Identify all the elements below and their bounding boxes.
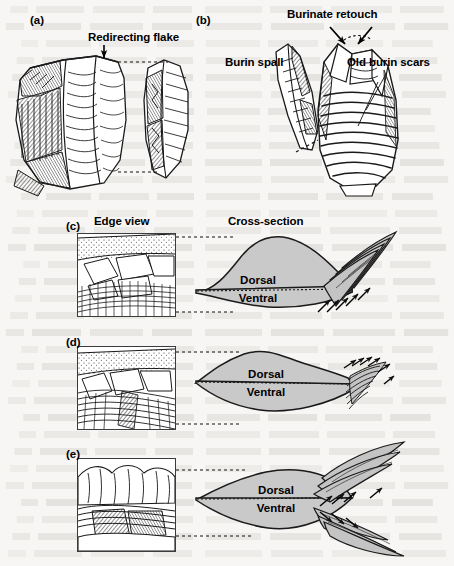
panel-a-artifact-profile <box>144 60 188 178</box>
label-cross-section: Cross-section <box>228 215 303 227</box>
label-dorsal-d: Dorsal <box>236 368 296 380</box>
panel-id-d: (d) <box>66 336 81 348</box>
figure-artwork <box>0 0 454 566</box>
edge-view-box-c <box>77 233 176 317</box>
label-ventral-d: Ventral <box>236 386 296 398</box>
edge-view-box-e <box>77 458 176 552</box>
panel-id-b: (b) <box>196 14 211 26</box>
label-ventral-e: Ventral <box>246 502 306 514</box>
label-burinate-retouch: Burinate retouch <box>287 8 377 20</box>
label-ventral-c: Ventral <box>228 292 288 304</box>
panel-d-cross-section <box>196 351 394 410</box>
label-edge-view: Edge view <box>94 215 149 227</box>
archaeology-figure: (a) (b) (c) (d) (e) Redirecting flake Bu… <box>0 0 454 566</box>
panel-e-cross-section <box>196 442 404 556</box>
label-dorsal-e: Dorsal <box>246 484 306 496</box>
label-dorsal-c: Dorsal <box>228 274 288 286</box>
panel-a-leader-lines <box>104 45 168 172</box>
page-bleed-through-text <box>0 0 454 566</box>
edge-view-box-d <box>77 346 176 430</box>
label-burin-spall: Burin spall <box>225 56 283 68</box>
panel-a-artifact-main <box>14 56 126 196</box>
panel-d-leaders <box>176 352 240 424</box>
label-redirecting-flake: Redirecting flake <box>88 31 179 43</box>
panel-b-burinate-arrows <box>330 27 372 44</box>
panel-c-cross-section <box>196 232 396 312</box>
panel-id-c: (c) <box>66 220 80 232</box>
panel-id-a: (a) <box>30 14 44 26</box>
panel-c-leaders <box>176 237 236 312</box>
panel-id-e: (e) <box>66 448 80 460</box>
label-old-burin-scars: Old burin scars <box>347 56 430 68</box>
panel-e-leaders <box>176 470 252 536</box>
